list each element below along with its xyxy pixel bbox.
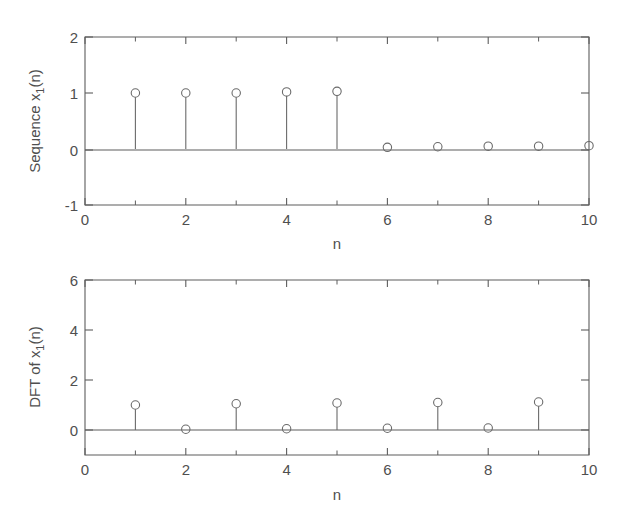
y-tick-label: 6 xyxy=(70,272,78,289)
y-tick-labels: 2 1 0 -1 xyxy=(65,29,78,214)
data-point-marker xyxy=(383,424,391,432)
x-tick-label: 4 xyxy=(282,461,290,478)
y-axis-title: DFT of x1(n) xyxy=(26,326,46,408)
data-point-marker xyxy=(484,142,492,150)
chart-panel-sequence: 2 1 0 -1 0 2 4 6 8 10 n Sequence x1(n) xyxy=(0,0,625,260)
data-point-marker xyxy=(484,424,492,432)
data-point-marker xyxy=(232,89,240,97)
data-point-marker xyxy=(232,400,240,408)
y-tick-label: 4 xyxy=(70,322,78,339)
x-tick-label: 6 xyxy=(383,211,391,228)
data-point-marker xyxy=(282,88,290,96)
data-point-marker xyxy=(182,89,190,97)
y-axis-title-post: (n) xyxy=(26,326,43,344)
data-point-marker xyxy=(182,425,190,433)
y-tick-labels: 6 4 2 0 xyxy=(70,272,78,439)
x-tick-labels: 0 2 4 6 8 10 xyxy=(81,211,598,228)
svg-text:Sequence x1(n): Sequence x1(n) xyxy=(26,69,46,173)
x-tick-label: 10 xyxy=(581,211,598,228)
stem-series-sequence xyxy=(131,87,593,151)
x-tick-labels: 0 2 4 6 8 10 xyxy=(81,461,598,478)
data-point-marker xyxy=(282,425,290,433)
x-tick-label: 2 xyxy=(182,211,190,228)
y-axis-title-post: (n) xyxy=(26,69,43,87)
x-tick-label: 2 xyxy=(182,461,190,478)
y-tick-label: 1 xyxy=(70,85,78,102)
x-tick-label: 6 xyxy=(383,461,391,478)
data-point-marker xyxy=(333,399,341,407)
data-point-marker xyxy=(131,401,139,409)
data-point-marker xyxy=(131,89,139,97)
x-tick-label: 4 xyxy=(282,211,290,228)
svg-text:DFT of x1(n): DFT of x1(n) xyxy=(26,326,46,408)
x-tick-label: 0 xyxy=(81,211,89,228)
x-axis-title: n xyxy=(333,235,341,252)
x-tick-label: 8 xyxy=(484,461,492,478)
data-point-marker xyxy=(534,142,542,150)
x-tick-label: 10 xyxy=(581,461,598,478)
y-tick-label: 2 xyxy=(70,372,78,389)
figure-container: 2 1 0 -1 0 2 4 6 8 10 n Sequence x1(n) xyxy=(0,0,625,511)
data-point-marker xyxy=(434,398,442,406)
stem-series-dft xyxy=(131,398,543,434)
sequence-chart-svg: 2 1 0 -1 0 2 4 6 8 10 n Sequence x1(n) xyxy=(0,0,625,260)
x-axis-title: n xyxy=(333,486,341,503)
y-tick-label: 0 xyxy=(70,422,78,439)
y-tick-label: 2 xyxy=(70,29,78,46)
data-point-marker xyxy=(333,87,341,95)
y-axis-title: Sequence x1(n) xyxy=(26,69,46,173)
dft-chart-svg: 6 4 2 0 0 2 4 6 8 10 n DFT of x1(n) xyxy=(0,255,625,511)
x-tick-label: 0 xyxy=(81,461,89,478)
y-tick-label: -1 xyxy=(65,197,78,214)
y-axis-title-pre: Sequence x xyxy=(26,93,43,173)
y-axis-title-pre: DFT of x xyxy=(26,350,43,408)
y-tick-label: 0 xyxy=(70,142,78,159)
chart-panel-dft: 6 4 2 0 0 2 4 6 8 10 n DFT of x1(n) xyxy=(0,255,625,511)
x-tick-label: 8 xyxy=(484,211,492,228)
data-point-marker xyxy=(534,398,542,406)
